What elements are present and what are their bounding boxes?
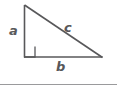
label-side-c: c [64, 21, 72, 34]
triangle-drawing [0, 0, 117, 93]
right-triangle-figure: a c b [0, 0, 117, 93]
label-side-b: b [56, 60, 65, 73]
label-side-a: a [9, 24, 18, 37]
right-angle-marker-icon [24, 47, 35, 58]
